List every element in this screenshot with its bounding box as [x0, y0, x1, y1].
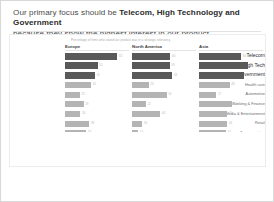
bar-asia-high-tech [199, 62, 248, 69]
bar-asia-automotive [199, 92, 216, 98]
bar-value-label: 27 [218, 92, 221, 97]
bar-asia-health-care [199, 82, 230, 88]
bar-north-america-government [132, 72, 172, 79]
panel-rule-asia [199, 50, 263, 51]
bar-value-label: 38 [91, 121, 94, 126]
panel-rule-north-america [132, 50, 196, 51]
bar-north-america-high-tech [132, 62, 170, 69]
bar-value-label: 47 [97, 73, 100, 78]
bar-asia-telecom [199, 53, 241, 60]
bar-europe-government [65, 72, 95, 79]
panel-header-asia: Asia [199, 44, 208, 49]
bar-europe-media-entertainment [65, 111, 80, 117]
bar-north-america-telecom [132, 53, 170, 60]
bar-value-label: 76 [249, 63, 252, 68]
chart-row: Government476370 [10, 71, 265, 81]
bar-value-label: 44 [162, 111, 165, 116]
bar-europe-automotive [65, 92, 80, 98]
bar-value-label: 66 [243, 54, 246, 59]
bar-value-label: 26 [150, 82, 153, 87]
bar-asia-banking-finance [199, 101, 232, 107]
panel-rule-europe [65, 50, 129, 51]
bar-asia-media-entertainment [199, 111, 227, 117]
bar-value-label: 54 [168, 92, 171, 97]
bar-north-america-media-entertainment [132, 111, 160, 117]
bar-value-label: 23 [81, 92, 84, 97]
chart-row: High Tech515976 [10, 62, 265, 72]
bar-value-label: 59 [171, 63, 174, 68]
bar-asia-government [199, 72, 244, 79]
bar-asia-retail [199, 121, 227, 127]
chart-row: Telecom826066 [10, 52, 265, 62]
bar-value-label: 16 [144, 121, 147, 126]
bar-north-america-retail [132, 121, 142, 127]
bar-north-america-automotive [132, 92, 167, 98]
chart-row: Media & Entertainment244444 [10, 110, 265, 120]
bar-value-label: 24 [82, 111, 85, 116]
bar-europe-high-tech [65, 62, 98, 69]
bar-value-label: 44 [229, 121, 232, 126]
bar-value-label: 48 [231, 82, 234, 87]
slide-canvas: Our primary focus should be Telecom, Hig… [0, 0, 274, 202]
chart-row: Retail381644 [10, 119, 265, 129]
chart-row: Banking & Finance292252 [10, 100, 265, 110]
chart-card: Percentage of firms who stated our produ… [9, 34, 266, 167]
panel-header-north-america: North America [132, 44, 162, 49]
bar-europe-telecom [65, 53, 117, 60]
bar-value-label: 60 [172, 54, 175, 59]
bar-europe-retail [65, 121, 89, 127]
bar-value-label: 82 [119, 54, 122, 59]
bar-value-label: 22 [148, 102, 151, 107]
bar-value-label: 41 [93, 82, 96, 87]
chart-row: Automotive235427 [10, 90, 265, 100]
bar-value-label: 63 [174, 73, 177, 78]
panel-header-europe: Europe [65, 44, 80, 49]
chart-subtitle: Percentage of firms who stated our produ… [71, 38, 170, 42]
bar-value-label: 44 [229, 111, 232, 116]
bar-value-label: 70 [245, 73, 248, 78]
bar-europe-banking-finance [65, 101, 84, 107]
chart-row: Health care412648 [10, 81, 265, 91]
headline-divider [13, 31, 261, 32]
bar-value-label: 29 [85, 102, 88, 107]
bar-north-america-banking-finance [132, 101, 146, 107]
bar-north-america-health-care [132, 82, 149, 88]
bar-value-label: 51 [99, 63, 102, 68]
bar-europe-health-care [65, 82, 91, 88]
card-footer-space [10, 132, 265, 166]
bar-value-label: 52 [234, 102, 237, 107]
headline-prefix: Our primary focus should be [13, 8, 119, 17]
